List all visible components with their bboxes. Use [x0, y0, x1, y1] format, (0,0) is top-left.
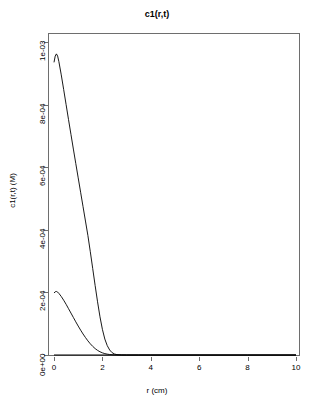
- y-axis-label: c1(r,t) (M): [8, 141, 17, 241]
- x-tick-mark: [199, 357, 200, 361]
- y-tick-label: 6e-04: [38, 166, 47, 200]
- curve-layer: [0, 0, 314, 410]
- chart-figure: c1(r,t) 0246810 0e+002e-044e-046e-048e-0…: [0, 0, 314, 410]
- y-tick-label: 4e-04: [38, 228, 47, 262]
- x-axis-label: r (cm): [0, 386, 314, 395]
- x-tick-mark: [102, 357, 103, 361]
- y-tick-label: 8e-04: [38, 103, 47, 137]
- y-tick-label: 1e-03: [38, 41, 47, 75]
- series-curve-1: [54, 54, 296, 355]
- x-tick-label: 6: [184, 363, 214, 372]
- x-tick-label: 8: [233, 363, 263, 372]
- x-tick-label: 10: [281, 363, 311, 372]
- x-tick-label: 4: [136, 363, 166, 372]
- y-tick-label: 2e-04: [38, 291, 47, 325]
- x-tick-mark: [151, 357, 152, 361]
- x-tick-mark: [296, 357, 297, 361]
- x-tick-mark: [248, 357, 249, 361]
- x-tick-mark: [54, 357, 55, 361]
- series-curve-2: [54, 291, 296, 355]
- y-tick-label: 0e+00: [38, 354, 47, 388]
- x-tick-label: 2: [87, 363, 117, 372]
